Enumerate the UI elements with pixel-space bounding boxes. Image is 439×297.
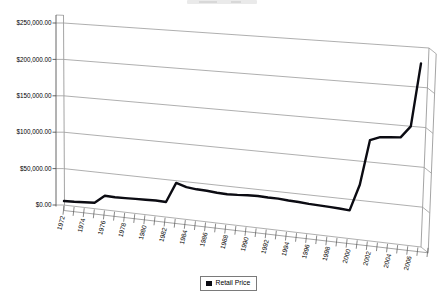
x-axis-tick [316,236,317,245]
y-axis-label: $250,000.00 [16,19,52,26]
x-axis-tick [275,231,276,240]
side-wall-connector [426,128,433,134]
side-wall-connector [429,48,436,54]
left-wall-edge [64,15,65,205]
x-axis-tick [245,227,246,236]
x-axis-tick [93,209,94,218]
x-axis-label: 1986 [198,231,209,247]
x-axis-tick [376,243,377,251]
side-wall-connector [423,207,430,213]
chart-legend: Retail Price [200,276,257,291]
x-axis-label: 1990 [239,236,250,252]
series-line-retail-price [64,63,421,210]
x-axis-tick [184,220,185,229]
right-wall-back-edge [421,48,429,247]
x-axis-tick [387,244,388,252]
x-axis-tick [265,230,266,239]
side-wall-connector [427,88,434,94]
x-axis-tick [356,240,357,248]
x-axis-tick [407,246,408,254]
x-axis-tick [164,218,165,227]
x-axis-label: 1988 [219,234,230,250]
x-axis-tick [205,222,206,231]
x-axis-tick [285,232,286,241]
x-axis-label: 1996 [300,243,311,259]
x-axis-label: 1974 [76,217,87,233]
y-axis-label: $200,000.00 [16,56,52,63]
right-wall-front-edge [428,54,436,253]
x-axis-tick [194,221,195,230]
x-axis-tick [336,238,337,246]
legend-label-retail-price: Retail Price [216,280,251,287]
side-wall-connector [424,167,431,173]
chart-canvas: $250,000.00$200,000.00$150,000.00$100,00… [0,0,439,297]
x-axis-tick [63,206,64,215]
x-axis-label: 1994 [280,241,291,257]
x-axis-label: 1992 [259,238,270,254]
x-axis-tick [124,213,125,222]
x-axis-tick [346,239,347,247]
y-axis-label: $50,000.00 [20,165,52,172]
x-axis-tick [427,248,428,257]
x-axis-label: 2006 [402,255,413,271]
x-axis-tick [225,225,226,234]
x-axis-tick [154,217,155,226]
x-axis-tick [326,237,327,246]
x-axis-label: 1982 [157,226,168,242]
x-axis-tick [215,224,216,233]
x-axis-label: 2004 [382,252,393,268]
x-axis-tick [235,226,236,235]
gridline [56,169,423,208]
x-axis-tick [174,219,175,228]
x-axis-label: 1984 [178,229,189,245]
x-axis-tick [114,212,115,221]
y-axis-label: $150,000.00 [16,92,52,99]
legend-marker-retail-price [206,281,212,287]
x-axis-tick [255,228,256,237]
gridline [56,96,426,128]
x-axis-label: 1972 [55,215,66,231]
x-axis-tick [134,214,135,223]
x-axis-label: 2002 [361,250,372,266]
x-axis-label: 1978 [117,222,128,238]
chart-window: $250,000.00$200,000.00$150,000.00$100,00… [0,0,439,297]
x-axis-tick [397,245,398,253]
x-axis-tick [296,233,297,242]
gridline [56,23,429,48]
x-axis-tick [144,215,145,224]
y-axis-label: $0.00 [36,201,52,208]
x-axis-label: 1976 [96,219,107,235]
gridline [56,205,421,247]
x-axis-tick [366,241,367,249]
y-axis-label: $100,000.00 [16,128,52,135]
gridline [56,59,427,87]
x-axis-tick [103,211,104,220]
x-axis-label: 1998 [321,245,332,261]
x-axis-tick [73,207,74,216]
x-axis-tick [417,247,418,255]
x-axis-tick [83,208,84,217]
x-axis-label: 1980 [137,224,148,240]
x-axis-label: 2000 [341,248,352,264]
x-axis-tick [306,234,307,243]
